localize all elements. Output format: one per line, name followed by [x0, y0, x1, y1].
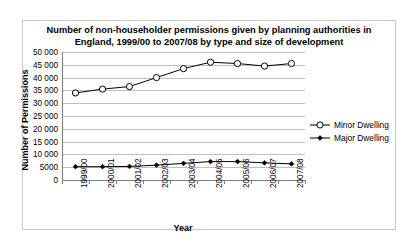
data-point-marker: [73, 164, 78, 169]
x-axis-tick-mark: [170, 180, 171, 184]
legend-item[interactable]: Major Dwelling: [309, 131, 389, 144]
y-axis-tick-label: 20 000: [33, 124, 58, 133]
chart-title-line-1: Number of non-householder permissions gi…: [47, 25, 372, 35]
data-point-marker: [181, 161, 186, 166]
x-axis-tick-mark: [305, 180, 306, 184]
data-point-marker: [207, 59, 213, 65]
y-axis-tick-label: 30 000: [33, 99, 58, 108]
x-axis-tick-mark: [197, 180, 198, 184]
data-point-marker: [153, 75, 159, 81]
y-axis-tick-label: 40 000: [33, 73, 58, 82]
y-axis-tick-label: 25 000: [33, 112, 58, 121]
data-series-layer: [62, 52, 305, 180]
x-axis-tick-mark: [62, 180, 63, 184]
x-axis-tick-mark: [278, 180, 279, 184]
y-axis-tick-label: 10 000: [33, 150, 58, 159]
chart-title: Number of non-householder permissions gi…: [26, 24, 392, 48]
data-point-marker: [154, 163, 159, 168]
data-point-marker: [262, 160, 267, 165]
y-axis-tick-label: 35 000: [33, 86, 58, 95]
data-point-marker: [126, 83, 132, 89]
data-point-marker: [208, 159, 213, 164]
legend-item[interactable]: Minor Dwelling: [309, 118, 389, 131]
y-axis-tick-label: 0: [53, 176, 58, 185]
data-point-marker: [235, 159, 240, 164]
data-point-marker: [288, 60, 294, 66]
data-point-marker: [289, 161, 294, 166]
open-circle-marker-icon: [309, 119, 331, 131]
chart-container: Number of non-householder permissions gi…: [0, 0, 420, 248]
x-axis-title: Year: [58, 223, 308, 233]
x-axis-tick-mark: [116, 180, 117, 184]
y-axis-title: Number of Permissions: [20, 50, 30, 190]
data-point-marker: [100, 164, 105, 169]
chart-legend: Minor DwellingMajor Dwelling: [309, 118, 389, 144]
y-axis-tick-label: 15 000: [33, 137, 58, 146]
x-axis-tick-mark: [89, 180, 90, 184]
x-axis-tick-mark: [251, 180, 252, 184]
filled-diamond-marker-icon: [309, 132, 331, 144]
data-point-marker: [234, 60, 240, 66]
y-axis-tick-label: 50 000: [33, 48, 58, 57]
chart-title-line-2: England, 1999/00 to 2007/08 by type and …: [26, 36, 392, 48]
plot-area: 0500010 00015 00020 00025 00030 00035 00…: [62, 52, 305, 180]
y-axis-tick-label: 5000: [40, 163, 58, 172]
x-axis-tick-mark: [224, 180, 225, 184]
x-axis-tick-mark: [143, 180, 144, 184]
legend-label: Major Dwelling: [334, 132, 389, 144]
data-point-marker: [127, 164, 132, 169]
data-point-marker: [99, 86, 105, 92]
legend-label: Minor Dwelling: [334, 119, 389, 131]
data-point-marker: [180, 66, 186, 72]
data-point-marker: [261, 63, 267, 69]
data-point-marker: [72, 90, 78, 96]
y-axis-tick-label: 45 000: [33, 60, 58, 69]
